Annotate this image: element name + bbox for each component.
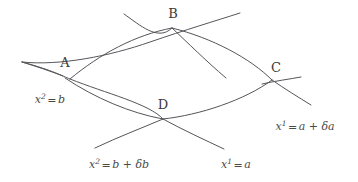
coordinate-curves-group [0,0,358,182]
equation-label-x1-equals-a: x1=a [221,158,251,171]
curve-x2-equals-b [22,62,163,119]
vertex-label-B: B [168,7,178,20]
vertex-label-C: C [271,61,281,74]
equation-label-x1-equals-a-plus-delta-a: x1=a + δa [275,120,334,133]
arc-B-to-C [172,28,272,80]
equation-label-x2-equals-b: x2=b [35,93,65,106]
eq-rhs: b [58,93,65,106]
eq-operator: = [100,158,112,171]
arc-A-to-D [65,78,163,119]
vertex-label-D: D [158,98,168,111]
arc-A-to-B [70,28,172,79]
eq-rhs: b + δb [112,158,149,171]
curve-x1-equals-a [124,14,172,33]
curve-x1-equals-a-below-D [163,119,224,149]
curve-x1-equals-a-plus-delta-a-extension [272,80,311,105]
geometry-diagram: A B C D x2=b x2=b + δb x1=a x1=a + δa [0,0,358,182]
curve-x2-equals-b-plus-delta-b-extension [262,77,301,84]
curve-x2-equals-b-plus-delta-b [95,119,163,148]
eq-rhs: a [244,158,251,171]
eq-operator: = [46,93,58,106]
arc-D-to-C [163,80,272,119]
eq-operator: = [286,120,298,133]
eq-operator: = [232,158,244,171]
eq-rhs: a + δa [299,120,335,133]
curve-stub-left-of-A [22,62,63,76]
equation-label-x2-equals-b-plus-delta-b: x2=b + δb [89,158,149,171]
curve-segment-upper-left [22,13,240,63]
curve-x1-equals-a-lower [172,28,226,78]
vertex-label-A: A [60,56,69,69]
